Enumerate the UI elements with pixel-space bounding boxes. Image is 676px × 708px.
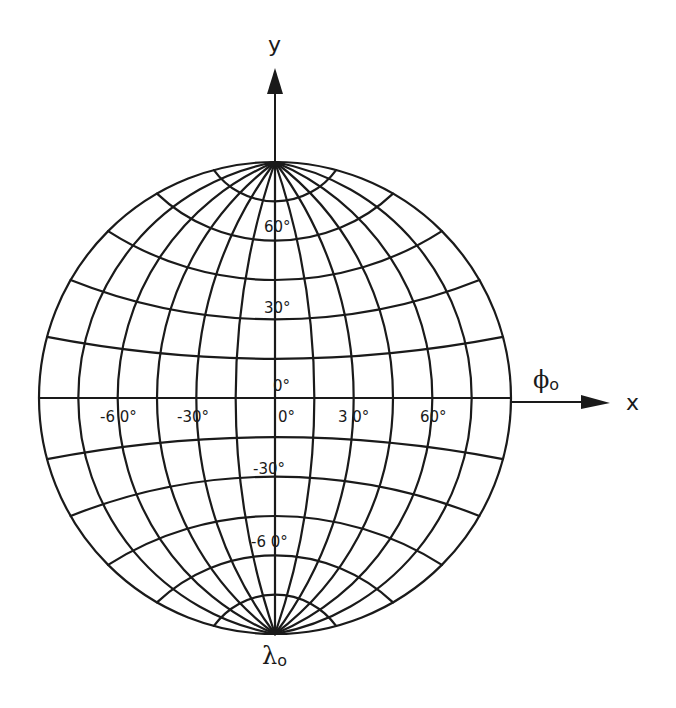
latitude-label-30: 30°	[264, 299, 291, 317]
y-axis-arrowhead-icon	[267, 68, 283, 94]
longitude-label-neg60: -6 0°	[100, 408, 137, 426]
globular-projection-diagram: y x ϕo λo 60° 30° 0° -30° -6 0° -6 0° -3…	[0, 0, 676, 708]
x-axis: x ϕo	[514, 366, 639, 415]
latitude-label-0: 0°	[273, 377, 290, 395]
south-pole-marker	[269, 629, 281, 635]
longitude-label-60: 60°	[420, 408, 447, 426]
lambda-zero-label: λo	[262, 642, 287, 670]
latitude-label-neg30: -30°	[253, 460, 285, 478]
y-axis: y	[267, 32, 283, 162]
longitude-label-30: 3 0°	[338, 408, 369, 426]
phi-zero-label: ϕo	[533, 366, 559, 394]
latitude-label-60: 60°	[264, 218, 291, 236]
y-axis-label: y	[268, 32, 281, 57]
longitude-labels: -6 0° -30° 0° 3 0° 60°	[100, 408, 447, 426]
latitude-labels: 60° 30° 0° -30° -6 0°	[251, 218, 291, 551]
x-axis-label: x	[626, 390, 639, 415]
longitude-label-0: 0°	[278, 408, 295, 426]
longitude-label-neg30: -30°	[177, 408, 209, 426]
north-pole-marker	[265, 161, 285, 167]
latitude-label-neg60: -6 0°	[251, 533, 288, 551]
x-axis-arrowhead-icon	[581, 395, 610, 409]
